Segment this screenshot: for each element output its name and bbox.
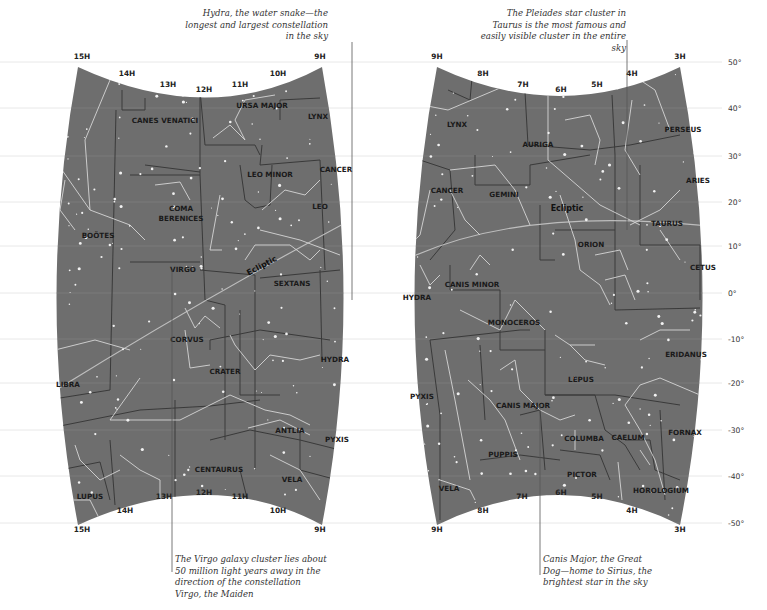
declination-label: -40° xyxy=(728,472,744,481)
star xyxy=(352,434,355,437)
star xyxy=(64,472,66,474)
star xyxy=(42,415,44,417)
star xyxy=(490,350,492,352)
star xyxy=(222,391,225,394)
constellation-label: CETUS xyxy=(690,263,716,272)
star xyxy=(348,339,349,340)
star xyxy=(256,391,257,392)
star xyxy=(582,197,583,198)
declination-label: -50° xyxy=(728,519,744,528)
declination-label: 30° xyxy=(728,152,742,161)
star xyxy=(399,433,402,436)
star xyxy=(588,419,591,422)
star xyxy=(173,239,176,242)
star xyxy=(295,489,297,491)
star xyxy=(545,495,547,497)
hour-label: 10H xyxy=(270,506,286,515)
star xyxy=(441,173,443,175)
star xyxy=(68,225,69,226)
constellation-label: HYDRA xyxy=(321,355,350,364)
star xyxy=(438,479,440,481)
constellation-label: LUPUS xyxy=(77,492,103,501)
star xyxy=(404,346,405,347)
star xyxy=(296,392,298,394)
star xyxy=(616,87,619,90)
star xyxy=(563,153,566,156)
star xyxy=(639,408,640,409)
star xyxy=(589,91,591,93)
star xyxy=(671,507,673,509)
star xyxy=(174,293,177,296)
star xyxy=(78,178,80,180)
star xyxy=(554,108,556,110)
star xyxy=(267,321,270,324)
constellation-label: VELA xyxy=(282,475,303,484)
star xyxy=(139,173,141,175)
star xyxy=(351,301,352,302)
star xyxy=(55,500,58,503)
star xyxy=(717,231,720,234)
star xyxy=(244,233,246,235)
star xyxy=(78,481,80,483)
star xyxy=(661,322,664,325)
star xyxy=(618,496,619,497)
star xyxy=(562,96,564,98)
star xyxy=(607,501,608,502)
star xyxy=(701,74,704,77)
star xyxy=(534,473,536,475)
star xyxy=(428,470,430,472)
star xyxy=(334,341,336,343)
star xyxy=(480,439,483,442)
star xyxy=(282,360,284,362)
star xyxy=(67,158,68,159)
hour-label: 4H xyxy=(626,69,637,78)
star xyxy=(285,333,288,336)
star xyxy=(667,339,670,342)
declination-label: 40° xyxy=(728,104,742,113)
star xyxy=(239,313,240,314)
star xyxy=(274,335,277,338)
star xyxy=(599,179,601,181)
star xyxy=(263,339,264,340)
constellation-label: ARIES xyxy=(686,176,710,185)
star xyxy=(693,151,696,154)
star xyxy=(189,466,190,467)
star xyxy=(506,108,509,111)
star xyxy=(718,277,719,278)
star xyxy=(327,505,329,507)
star xyxy=(41,351,42,352)
hour-label: 8H xyxy=(477,506,488,515)
star xyxy=(182,94,185,97)
star-chart: 50°40°30°20°10°0°-10°-20°-30°-40°-50° 15… xyxy=(0,0,767,610)
star xyxy=(698,138,699,139)
star xyxy=(549,502,552,505)
star xyxy=(622,121,625,124)
star xyxy=(116,409,117,410)
star xyxy=(454,456,456,458)
star xyxy=(309,139,310,140)
star xyxy=(719,365,721,367)
star xyxy=(549,505,551,507)
star xyxy=(151,518,154,521)
star xyxy=(646,282,648,284)
star xyxy=(126,419,129,422)
star xyxy=(435,115,436,116)
hour-label: 6H xyxy=(555,488,566,497)
star xyxy=(217,215,218,216)
star xyxy=(113,198,116,201)
star xyxy=(612,403,613,404)
constellation-label: HYDRA xyxy=(403,293,432,302)
constellation-label: LEPUS xyxy=(568,375,594,384)
star xyxy=(65,495,67,497)
star xyxy=(119,171,122,174)
star xyxy=(224,160,226,162)
star xyxy=(604,367,605,368)
star xyxy=(665,238,668,241)
star xyxy=(720,283,723,286)
star xyxy=(440,198,442,200)
star xyxy=(279,217,282,220)
hour-label: 15H xyxy=(74,52,90,61)
star xyxy=(492,156,493,157)
constellation-label: PYXIS xyxy=(410,392,434,401)
star xyxy=(84,137,85,138)
